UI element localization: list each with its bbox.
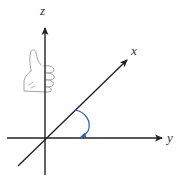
x-axis-label: x (130, 43, 137, 58)
rotation-arc-icon (75, 110, 89, 137)
thumbs-up-hand-icon (24, 50, 54, 92)
y-axis-label: y (165, 130, 173, 145)
diagram-canvas: z x y (0, 0, 181, 182)
coordinate-system-diagram: z x y (0, 0, 181, 182)
z-axis-label: z (39, 3, 45, 18)
